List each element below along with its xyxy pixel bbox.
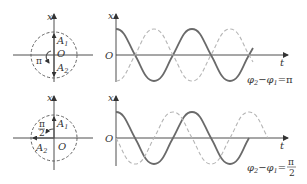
origin-label: O — [57, 48, 65, 59]
vector-a1-label: A1 — [56, 118, 68, 131]
angle-label-fraction: π 2 — [38, 119, 45, 138]
graph-origin-label: O — [105, 50, 113, 61]
vector-a1-label: A1 — [56, 35, 68, 48]
origin-label: O — [58, 141, 66, 152]
x-axis-label: t — [280, 57, 285, 68]
phase-difference-diagram: x O A1 A2 π x t O φ2−φ1=π x O A1 A2 π 2 — [0, 0, 307, 184]
phasor-axis-label: x — [47, 92, 53, 103]
vector-a2-label: A2 — [56, 62, 68, 75]
time-graph-top: x t O φ2−φ1=π — [105, 10, 293, 87]
graph-origin-label: O — [105, 133, 113, 144]
angle-label: π — [36, 56, 42, 66]
angle-arc-arrow — [46, 129, 54, 133]
angle-arc-arrow — [46, 51, 51, 63]
phase-difference-formula: φ2−φ1= — [247, 162, 286, 175]
phase-difference-formula: φ2−φ1=π — [247, 74, 293, 87]
phase-formula-fraction: π 2 — [287, 157, 296, 178]
formula-denominator: 2 — [289, 168, 295, 178]
phasor-diagram-top: x O A1 A2 π — [13, 11, 93, 82]
phasor-diagram-bottom: x O A1 A2 π 2 — [13, 92, 93, 170]
y-axis-label: x — [108, 92, 114, 103]
time-graph-bottom: x t O φ2−φ1= π 2 — [105, 92, 296, 178]
phasor-axis-label: x — [47, 11, 53, 22]
angle-denominator: 2 — [39, 128, 45, 138]
x-axis-label: t — [280, 140, 285, 151]
formula-numerator: π — [288, 157, 294, 167]
y-axis-label: x — [108, 10, 114, 21]
